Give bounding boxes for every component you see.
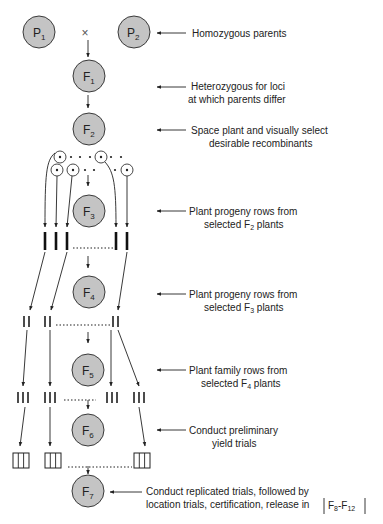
svg-text:location trials, certification: location trials, certification, release … bbox=[146, 499, 309, 510]
svg-text:Space plant and visually selec: Space plant and visually select bbox=[191, 125, 328, 136]
svg-text:Conduct replicated trials, fol: Conduct replicated trials, followed by bbox=[146, 486, 309, 497]
svg-text:Plant family rows from: Plant family rows from bbox=[189, 365, 287, 376]
f4-progeny-rows bbox=[24, 316, 118, 327]
node-p1: P1 bbox=[23, 16, 55, 48]
svg-text:at which parents differ: at which parents differ bbox=[188, 94, 286, 105]
pedigree-breeding-diagram: P1 × P2 F1 F2 bbox=[0, 0, 383, 524]
node-f6: F6 bbox=[72, 414, 104, 446]
svg-text:Plant progeny rows from: Plant progeny rows from bbox=[189, 289, 297, 300]
cross-symbol: × bbox=[81, 26, 88, 40]
f3-progeny-rows bbox=[45, 232, 127, 250]
svg-text:selected F3 plants: selected F3 plants bbox=[204, 302, 284, 314]
f2-population bbox=[51, 151, 133, 176]
node-f1: F1 bbox=[73, 60, 105, 92]
annotation-p2: Homozygous parents bbox=[192, 28, 287, 39]
svg-text:Plant progeny rows from: Plant progeny rows from bbox=[189, 206, 297, 217]
svg-text:selected F4 plants: selected F4 plants bbox=[201, 378, 281, 390]
annotation-f3: Plant progeny rows from selected F2 plan… bbox=[189, 206, 297, 231]
svg-text:selected F2 plants: selected F2 plants bbox=[204, 219, 284, 231]
release-generation-box: F8-F12 bbox=[324, 498, 365, 514]
f5-family-rows bbox=[18, 392, 144, 403]
svg-text:yield trials: yield trials bbox=[212, 438, 256, 449]
node-f2: F2 bbox=[73, 113, 105, 145]
node-f4: F4 bbox=[73, 276, 105, 308]
node-f7: F7 bbox=[72, 475, 104, 507]
svg-text:desirable recombinants: desirable recombinants bbox=[209, 138, 312, 149]
svg-text:Conduct preliminary: Conduct preliminary bbox=[189, 425, 278, 436]
annotation-f4: Plant progeny rows from selected F3 plan… bbox=[189, 289, 297, 314]
node-f3: F3 bbox=[73, 195, 105, 227]
annotation-arrows bbox=[110, 33, 186, 492]
annotation-f1: Heterozygous for loci at which parents d… bbox=[188, 81, 286, 105]
annotation-f5: Plant family rows from selected F4 plant… bbox=[189, 365, 287, 390]
svg-text:Heterozygous for loci: Heterozygous for loci bbox=[191, 81, 285, 92]
annotation-f6: Conduct preliminary yield trials bbox=[189, 425, 278, 449]
node-f5: F5 bbox=[72, 354, 104, 386]
f6-yield-plots bbox=[13, 453, 150, 468]
svg-text:F8-F12: F8-F12 bbox=[328, 500, 355, 512]
svg-text:Homozygous parents: Homozygous parents bbox=[192, 28, 287, 39]
annotation-f7: Conduct replicated trials, followed by l… bbox=[146, 486, 309, 510]
annotation-f2: Space plant and visually select desirabl… bbox=[191, 125, 328, 149]
node-p2: P2 bbox=[118, 16, 150, 48]
